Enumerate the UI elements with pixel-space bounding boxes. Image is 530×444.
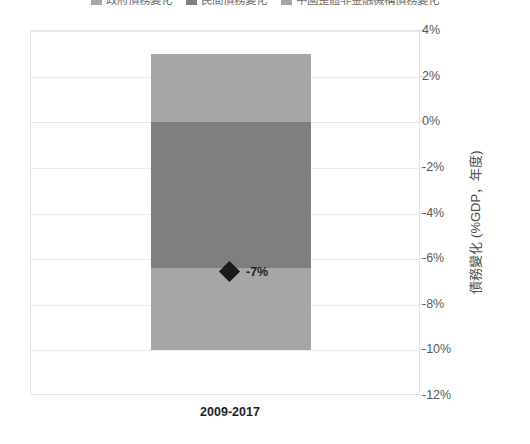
legend-swatch-total	[281, 0, 292, 5]
legend-label-private: 民間債務變化	[201, 0, 267, 7]
net-change-value-label: -7%	[246, 265, 268, 279]
legend-entry-government: 政府債務變化	[91, 0, 172, 7]
legend-swatch-government	[91, 0, 102, 5]
bar-segment-government	[151, 54, 311, 123]
bar-segment-private	[151, 122, 311, 268]
y-axis-title: 債務變化 (%GDP，年度)	[465, 151, 484, 294]
y-tick-label-minus6: -6%	[422, 251, 444, 265]
legend-entry-total: 中國整體非金融機構債務變化	[281, 0, 439, 7]
gridline-4	[31, 31, 419, 32]
plot-area: -7%	[30, 30, 420, 395]
y-tick-label-minus12: -12%	[422, 388, 451, 402]
y-tick-label-minus8: -8%	[422, 297, 444, 311]
y-tick-label-minus4: -4%	[422, 206, 444, 220]
legend-label-government: 政府債務變化	[106, 0, 172, 7]
y-tick-label-2: 2%	[422, 69, 440, 83]
y-tick-label-4: 4%	[422, 23, 440, 37]
x-axis-category-label: 2009-2017	[150, 405, 310, 419]
gridline-minus10	[31, 350, 419, 351]
legend-label-total: 中國整體非金融機構債務變化	[296, 0, 439, 7]
y-tick-label-minus2: -2%	[422, 160, 444, 174]
chart-screenshot: 政府債務變化 民間債務變化 中國整體非金融機構債務變化 -7%	[0, 0, 530, 444]
legend-swatch-private	[186, 0, 197, 5]
legend-entry-private: 民間債務變化	[186, 0, 267, 7]
y-tick-label-minus10: -10%	[422, 342, 451, 356]
bar-segment-total	[151, 268, 311, 350]
chart-legend: 政府債務變化 民間債務變化 中國整體非金融機構債務變化	[0, 0, 530, 9]
y-tick-label-0: 0%	[422, 114, 440, 128]
